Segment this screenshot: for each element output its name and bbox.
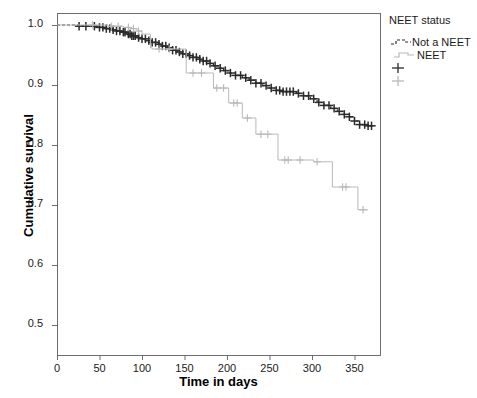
legend-title: NEET status [389, 14, 451, 26]
legend-label-neet: NEET [417, 49, 446, 61]
series-neet [57, 21, 368, 213]
legend-censor-mark-not-a-neet [389, 62, 413, 74]
legend-swatch-neet [392, 49, 416, 61]
legend-swatch-not-a-neet [389, 36, 413, 48]
series-not-a-neet [57, 22, 376, 130]
kaplan-meier-chart: Cumulative survival Time in days 0.50.60… [0, 0, 477, 398]
legend-censor-mark-neet [389, 75, 413, 87]
legend-label-not-a-neet: Not a NEET [412, 36, 471, 48]
